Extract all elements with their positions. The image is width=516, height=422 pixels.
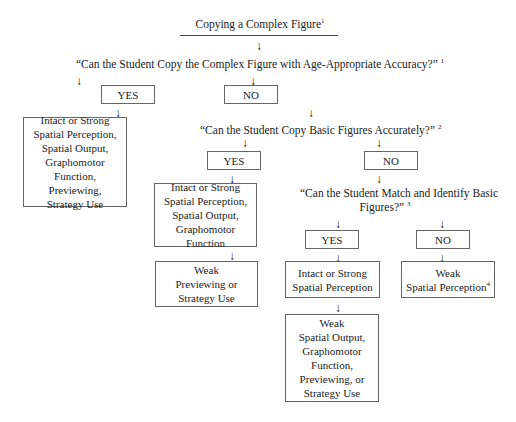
result-c-line: Weak: [194, 263, 219, 277]
question-2-text: “Can the Student Copy Basic Figures Accu…: [200, 124, 435, 136]
result-d-line: Intact or Strong: [298, 266, 367, 280]
result-c-line: Previewing or: [175, 277, 237, 291]
q2-no-box: NO: [364, 151, 418, 170]
question-3: “Can the Student Match and Identify Basi…: [300, 186, 470, 214]
arrow-down-icon: ↓: [73, 75, 85, 87]
result-c-line: Strategy Use: [178, 291, 235, 305]
result-b-line: Intact or Strong: [171, 180, 240, 194]
question-3-line1: “Can the Student Match and Identify Basi…: [300, 186, 470, 200]
result-intact-perception-box: Intact or Strong Spatial Perception: [285, 261, 380, 298]
arrow-down-icon: ↓: [253, 40, 265, 52]
result-b-line: Spatial Output,: [172, 208, 239, 222]
result-f-line: Strategy Use: [304, 386, 361, 400]
q3-no-box: NO: [416, 230, 470, 249]
result-weak-output-box: Weak Spatial Output, Graphomotor Functio…: [285, 314, 379, 402]
q2-yes-box: YES: [207, 151, 261, 170]
result-b-line: Graphomotor Function: [155, 222, 256, 250]
result-e-line: Weak: [436, 266, 461, 280]
arrow-down-icon: ↓: [332, 302, 344, 314]
question-3-line2: Figures?”: [359, 201, 404, 213]
arrow-down-icon: ↓: [305, 107, 317, 119]
arrow-down-icon: ↓: [239, 137, 251, 149]
q3-yes-label: YES: [322, 233, 343, 247]
arrow-down-icon: ↓: [332, 218, 344, 230]
question-3-footnote: 3: [407, 200, 411, 208]
result-weak-perception-box: Weak Spatial Perception4: [401, 261, 495, 298]
title-rule: [180, 35, 338, 36]
result-a-line: Spatial Output,: [42, 141, 109, 155]
result-e-line: Spatial Perception: [406, 281, 486, 293]
q1-no-box: NO: [224, 85, 278, 104]
question-1-text: “Can the Student Copy the Complex Figure…: [76, 58, 438, 70]
result-a-line: Graphomotor Function,: [24, 155, 126, 183]
question-1-footnote: 1: [441, 57, 445, 65]
question-1: “Can the Student Copy the Complex Figure…: [60, 57, 460, 71]
diagram-title: Copying a Complex Figure1: [170, 18, 350, 30]
result-a-line: Strategy Use: [47, 197, 104, 211]
q1-yes-box: YES: [101, 85, 155, 104]
q3-no-label: NO: [435, 233, 451, 247]
title-text: Copying a Complex Figure: [195, 18, 321, 30]
result-weak-previewing-box: Weak Previewing or Strategy Use: [155, 261, 258, 307]
result-f-line: Weak: [320, 316, 345, 330]
q2-no-label: NO: [383, 154, 399, 168]
result-d-line: Spatial Perception: [292, 280, 372, 294]
q3-yes-box: YES: [305, 230, 359, 249]
question-2: “Can the Student Copy Basic Figures Accu…: [200, 123, 422, 137]
result-f-line: Graphomotor: [302, 344, 361, 358]
result-a-line: Previewing,: [49, 183, 102, 197]
result-a-line: Spatial Perception,: [33, 127, 116, 141]
arrow-down-icon: ↓: [373, 173, 385, 185]
result-b-line: Spatial Perception,: [164, 194, 247, 208]
q1-yes-label: YES: [118, 88, 139, 102]
result-intact-partial-box: Intact or Strong Spatial Perception, Spa…: [154, 183, 257, 247]
result-f-line: Spatial Output,: [299, 330, 366, 344]
title-footnote: 1: [321, 17, 325, 25]
q2-yes-label: YES: [224, 154, 245, 168]
question-2-footnote: 2: [438, 123, 442, 131]
arrow-down-icon: ↓: [436, 218, 448, 230]
q1-no-label: NO: [243, 88, 259, 102]
result-intact-all-box: Intact or Strong Spatial Perception, Spa…: [23, 117, 127, 207]
result-f-line: Previewing, or: [300, 372, 365, 386]
result-a-line: Intact or Strong: [40, 113, 109, 127]
arrow-down-icon: ↓: [373, 137, 385, 149]
result-f-line: Function,: [311, 358, 353, 372]
result-e-footnote: 4: [486, 280, 490, 288]
